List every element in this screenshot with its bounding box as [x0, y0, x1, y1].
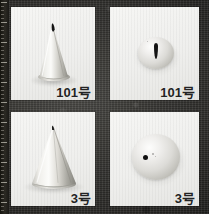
- ruler-tick: [1, 210, 4, 211]
- panel-3-side: 3号: [11, 112, 95, 206]
- piping-tip-grid: 101号 101号: [0, 0, 209, 214]
- ruler-tick: [1, 86, 4, 87]
- panel-101-side: 101号: [11, 7, 95, 100]
- ruler-tick: [1, 90, 4, 91]
- ruler-tick: [1, 102, 7, 103]
- ruler-tick: [1, 130, 4, 131]
- ruler-tick: [1, 34, 4, 35]
- round-tip-aperture-icon: [143, 155, 148, 160]
- ruler-tick: [1, 118, 4, 119]
- panel-label: 3号: [175, 192, 195, 205]
- ruler-tick: [1, 10, 4, 11]
- ruler-tick: [1, 178, 4, 179]
- ruler-tick: [1, 202, 7, 203]
- ruler-tick: [1, 190, 4, 191]
- ruler-tick: [1, 98, 4, 99]
- ruler-tick: [1, 158, 4, 159]
- panel-label: 3号: [71, 192, 91, 205]
- ruler-tick: [1, 62, 7, 63]
- ruler-tick: [1, 186, 4, 187]
- ruler-tick: [1, 82, 7, 83]
- ruler-tick: [1, 174, 4, 175]
- ruler-tick: [1, 138, 4, 139]
- surface-speck: [152, 153, 154, 155]
- ruler-tick: [1, 206, 4, 207]
- ruler-tick: [1, 198, 4, 199]
- ruler-tick: [1, 50, 4, 51]
- ruler-tick: [1, 122, 7, 123]
- ruler-tick: [1, 126, 4, 127]
- ruler-tick: [1, 14, 4, 15]
- ruler-tick: [1, 150, 4, 151]
- ruler-tick: [1, 26, 4, 27]
- ruler-tick: [1, 106, 4, 107]
- ruler-tick: [1, 74, 4, 75]
- ruler-tick: [1, 70, 4, 71]
- ruler-tick: [1, 30, 4, 31]
- ruler-tick: [1, 110, 4, 111]
- ruler-tick: [1, 134, 4, 135]
- ruler-tick: [1, 6, 4, 7]
- ruler-tick: [1, 182, 7, 183]
- round-tip-barrel: [132, 134, 180, 180]
- panel-label: 101号: [160, 86, 195, 99]
- ruler-tick: [1, 94, 4, 95]
- ruler-tick: [1, 166, 4, 167]
- ruler-tick: [1, 78, 4, 79]
- ruler-tick: [1, 46, 4, 47]
- ruler-tick: [1, 114, 4, 115]
- ruler-tick: [1, 162, 7, 163]
- panel-3-top: 3号: [110, 112, 199, 206]
- ruler-tick: [1, 170, 4, 171]
- ruler-tick: [1, 54, 4, 55]
- ruler-tick: [1, 18, 4, 19]
- ruler-tick: [1, 194, 4, 195]
- ruler-tick: [1, 22, 7, 23]
- ruler-tick: [1, 38, 4, 39]
- ruler-tick: [1, 66, 4, 67]
- ruler-tick: [1, 146, 4, 147]
- ruler-tick: [1, 154, 4, 155]
- ruler-tick: [1, 42, 7, 43]
- ruler-edge: [0, 0, 9, 214]
- petal-tip-aperture-icon: [154, 43, 158, 59]
- panel-101-top: 101号: [110, 7, 199, 100]
- panel-label: 101号: [56, 86, 91, 99]
- ruler-tick: [1, 2, 7, 3]
- ruler-tick: [1, 58, 4, 59]
- ruler-tick: [1, 142, 7, 143]
